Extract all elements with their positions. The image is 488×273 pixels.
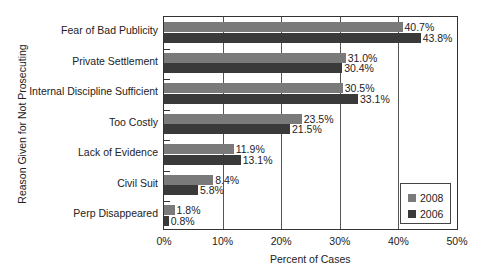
- gridline-30: [340, 17, 341, 229]
- y-tick: [164, 201, 170, 202]
- legend: 2008 2006: [400, 183, 451, 224]
- bar-2008: [164, 144, 234, 154]
- bar-2006: [164, 155, 241, 165]
- plot-area: 2008 2006 40.7%43.8%31.0%30.4%30.5%33.1%…: [163, 16, 458, 230]
- bar-2006: [164, 94, 358, 104]
- bar-2006: [164, 63, 342, 73]
- bar-2008: [164, 175, 213, 185]
- bar-2006: [164, 185, 198, 195]
- bar-2008: [164, 83, 343, 93]
- value-label-2008: 1.8%: [177, 205, 201, 215]
- value-label-2008: 40.7%: [405, 22, 435, 32]
- value-label-2006: 5.8%: [200, 185, 224, 195]
- y-axis-label: Reason Given for Not Prosecuting: [16, 44, 28, 203]
- bar-2006: [164, 124, 290, 134]
- value-label-2008: 11.9%: [236, 144, 265, 154]
- y-tick: [164, 171, 170, 172]
- value-label-2006: 43.8%: [423, 33, 453, 43]
- value-label-2006: 21.5%: [292, 124, 322, 134]
- value-label-2006: 0.8%: [171, 216, 195, 226]
- legend-swatch-2006: [408, 210, 416, 218]
- x-tick-label: 10%: [212, 235, 233, 247]
- value-label-2008: 8.4%: [215, 175, 239, 185]
- bar-2008: [164, 22, 403, 32]
- legend-item-2008: 2008: [408, 192, 443, 204]
- category-label: Fear of Bad Publicity: [61, 24, 158, 36]
- y-tick: [164, 110, 170, 111]
- x-tick-label: 0%: [156, 235, 171, 247]
- bar-2008: [164, 205, 175, 215]
- category-label: Private Settlement: [72, 55, 158, 67]
- bar-2006: [164, 216, 169, 226]
- value-label-2006: 33.1%: [360, 94, 390, 104]
- bar-2006: [164, 33, 421, 43]
- value-label-2006: 30.4%: [344, 63, 374, 73]
- legend-item-2006: 2006: [408, 208, 443, 220]
- legend-swatch-2008: [408, 194, 416, 202]
- value-label-2008: 30.5%: [345, 83, 375, 93]
- value-label-2008: 23.5%: [304, 114, 334, 124]
- y-tick: [164, 79, 170, 80]
- category-label: Perp Disappeared: [73, 207, 158, 219]
- x-axis-label: Percent of Cases: [270, 253, 351, 265]
- legend-label-2008: 2008: [420, 192, 443, 204]
- category-label: Lack of Evidence: [78, 146, 158, 158]
- category-label: Too Costly: [109, 116, 158, 128]
- x-tick-label: 40%: [388, 235, 409, 247]
- x-tick-label: 30%: [329, 235, 350, 247]
- category-label: Internal Discipline Sufficient: [29, 85, 158, 97]
- y-tick: [164, 140, 170, 141]
- y-tick: [164, 49, 170, 50]
- x-tick-label: 20%: [271, 235, 292, 247]
- value-label-2006: 13.1%: [243, 155, 273, 165]
- bar-2008: [164, 53, 346, 63]
- x-tick-label: 50%: [446, 235, 467, 247]
- legend-label-2006: 2006: [420, 208, 443, 220]
- value-label-2008: 31.0%: [348, 53, 378, 63]
- bar-2008: [164, 114, 302, 124]
- category-label: Civil Suit: [117, 177, 158, 189]
